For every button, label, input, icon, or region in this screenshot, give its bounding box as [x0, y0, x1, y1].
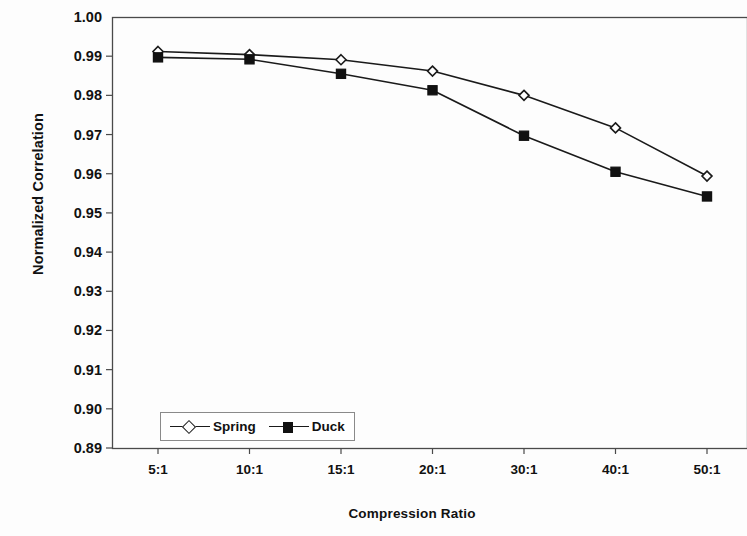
legend-marker-filled-square-icon [269, 420, 309, 434]
marker-open-diamond [428, 66, 438, 76]
marker-open-diamond [702, 171, 712, 181]
marker-open-diamond [336, 55, 346, 65]
plot-area [0, 0, 747, 536]
marker-filled-square [611, 167, 620, 176]
series-line-duck [158, 57, 707, 196]
legend-entry-duck: Duck [269, 419, 345, 434]
legend-label-duck: Duck [312, 419, 345, 434]
marker-open-diamond [611, 123, 621, 133]
marker-filled-square [428, 86, 437, 95]
marker-filled-square [153, 53, 162, 62]
marker-filled-square [702, 192, 711, 201]
marker-filled-square [245, 55, 254, 64]
marker-filled-square [519, 131, 528, 140]
legend-label-spring: Spring [213, 419, 256, 434]
plot-frame [113, 18, 747, 449]
marker-open-diamond [519, 90, 529, 100]
legend-marker-open-diamond-icon [170, 420, 210, 434]
chart-figure: Normalized Correlation 1.000.990.980.970… [0, 0, 747, 536]
chart-legend: Spring Duck [160, 412, 355, 441]
legend-entry-spring: Spring [170, 419, 256, 434]
marker-filled-square [336, 69, 345, 78]
x-axis-title: Compression Ratio [112, 506, 712, 521]
